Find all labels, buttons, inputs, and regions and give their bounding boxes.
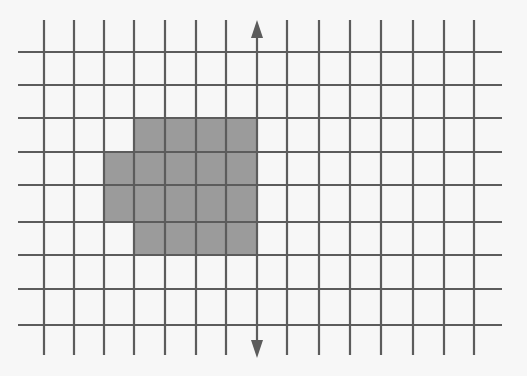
shaded-row [104,185,257,222]
grid-diagram [0,0,527,376]
diagram-canvas [0,0,527,376]
shaded-row [104,152,257,185]
background [0,0,527,376]
